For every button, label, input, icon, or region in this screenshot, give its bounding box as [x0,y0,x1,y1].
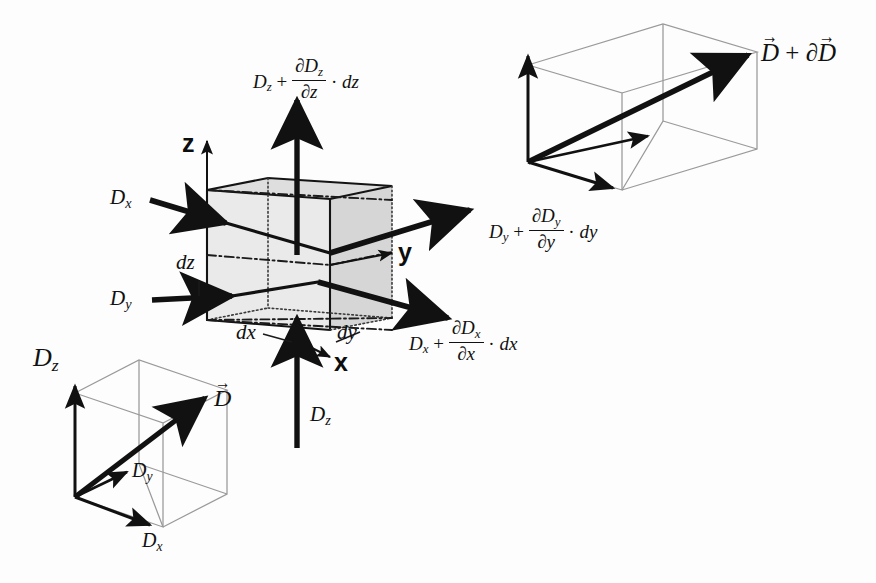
inset-left-Dx-vector [75,497,150,525]
dz-incoming-label: Dz [310,404,331,427]
dy-outgoing-label: Dy + ∂Dy ∂y · dy [489,206,597,251]
inset-left-Dz-label: Dz [33,345,59,375]
inset-right-Dy-vector [528,136,648,162]
electric-flux-density-figure: Dz + ∂Dz ∂z · dz z y x Dx dz Dy dx dy Dz… [0,0,876,583]
inset-left-Dx-label: Dx [142,530,163,553]
y-axis-label: y [398,240,412,265]
inset-right-D-vector [528,55,748,162]
inset-left-Dy-label: Dy [132,460,153,483]
dy-partial-fraction: ∂Dy ∂y [529,206,564,251]
dz-outgoing-label: Dz + ∂Dz ∂z · dz [253,56,359,101]
inset-right-Dx-vector [528,162,613,188]
inset-left-D-vector-label: D [214,385,231,410]
dx-dimension-label: dx [236,322,256,343]
inset-right-vector-label: D + ∂D [761,38,836,65]
x-axis-label: x [334,350,348,375]
dy-incoming-label: Dy [110,288,132,311]
z-axis-label: z [182,131,195,156]
dy-in-arrow [152,296,232,300]
dz-dimension-label: dz [176,252,195,273]
dx-outgoing-label: Dx + ∂Dx ∂x · dx [409,318,517,363]
inset-left-vectors [75,386,205,525]
dz-partial-fraction: ∂Dz ∂z [292,56,326,101]
dy-dimension-label: dy [337,322,357,343]
dx-incoming-label: Dx [110,187,132,210]
dx-partial-fraction: ∂Dx ∂x [449,318,484,363]
inset-left-wireframe [75,360,227,527]
